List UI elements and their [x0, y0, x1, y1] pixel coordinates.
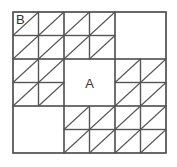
- cell-diagonal: [141, 59, 167, 83]
- cell-diagonal: [64, 106, 90, 130]
- cell-diagonal: [39, 83, 65, 107]
- grid-cell: [90, 130, 116, 154]
- grid-cell: [64, 106, 90, 130]
- cell-diagonal: [39, 59, 65, 83]
- cell-diagonal: [141, 83, 167, 107]
- grid-cell: [115, 106, 141, 130]
- cell-diagonal: [13, 36, 39, 60]
- grid-cell: [90, 36, 116, 60]
- cell-diagonal: [64, 36, 90, 60]
- grid-cell: [39, 83, 65, 107]
- grid-cell: [39, 12, 65, 36]
- grid-cell: [115, 59, 141, 83]
- grid-cell: [141, 59, 167, 83]
- cell-diagonal: [64, 130, 90, 154]
- cell-diagonal: [115, 59, 141, 83]
- grid-cell: [39, 36, 65, 60]
- bottom-left-block: [13, 106, 64, 153]
- grid-cell: [141, 130, 167, 154]
- cell-diagonal: [64, 12, 90, 36]
- grid-cell: [13, 36, 39, 60]
- grid-cell: [64, 12, 90, 36]
- grid-cell: [64, 130, 90, 154]
- grid-cell: [141, 106, 167, 130]
- grid-cell: [141, 83, 167, 107]
- cell-diagonal: [90, 106, 116, 130]
- grid-cell: [13, 59, 39, 83]
- top-right-block: [115, 12, 166, 59]
- cell-diagonal: [39, 36, 65, 60]
- label-a: A: [85, 76, 94, 91]
- grid-cell: [13, 83, 39, 107]
- cell-diagonal: [141, 106, 167, 130]
- cell-diagonal: [13, 59, 39, 83]
- cell-diagonal: [115, 106, 141, 130]
- cell-diagonal: [90, 12, 116, 36]
- cell-diagonal: [13, 83, 39, 107]
- grid-cell: [90, 12, 116, 36]
- grid-cell: [115, 130, 141, 154]
- cell-diagonal: [115, 83, 141, 107]
- cell-diagonal: [90, 36, 116, 60]
- grid-cell: [39, 59, 65, 83]
- tiling-diagram: B A: [0, 0, 177, 167]
- cell-diagonal: [39, 12, 65, 36]
- label-b: B: [16, 12, 25, 27]
- grid-cell: [115, 83, 141, 107]
- cell-diagonal: [90, 130, 116, 154]
- cell-diagonal: [115, 130, 141, 154]
- grid-cell: [90, 106, 116, 130]
- cell-diagonal: [141, 130, 167, 154]
- grid-cell: [64, 36, 90, 60]
